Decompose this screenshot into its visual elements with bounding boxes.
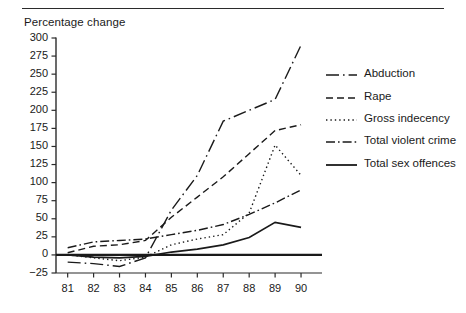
legend-line-sample-icon: [326, 90, 357, 102]
legend-item[interactable]: Total violent crime: [326, 129, 462, 151]
y-tick-label: 0: [0, 247, 48, 259]
legend-item[interactable]: Gross indecency: [326, 107, 462, 129]
y-tick-label: −25: [0, 266, 48, 278]
x-tick-label: 90: [281, 282, 321, 294]
series-line-rape: [68, 125, 301, 253]
legend-item[interactable]: Abduction: [326, 62, 462, 84]
legend-line-sample-icon: [326, 157, 357, 169]
y-tick-label: 75: [0, 193, 48, 205]
legend-item-label: Total violent crime: [364, 134, 456, 146]
series-layer: [68, 45, 301, 266]
y-tick-label: 225: [0, 85, 48, 97]
legend-line-sample-icon: [326, 112, 357, 124]
series-line-abduction: [68, 45, 301, 266]
series-line-gross-indecency: [68, 145, 301, 261]
legend-item-label: Total sex offences: [364, 157, 456, 169]
legend-line-sample-icon: [326, 134, 357, 146]
series-line-total-violent-crime: [68, 190, 301, 248]
legend-item[interactable]: Rape: [326, 84, 462, 106]
legend-item-label: Abduction: [364, 67, 415, 79]
y-tick-label: 100: [0, 175, 48, 187]
y-tick-label: 50: [0, 211, 48, 223]
axes-layer: [52, 38, 323, 278]
y-tick-label: 200: [0, 103, 48, 115]
chart-figure: Percentage change −250255075100125150175…: [0, 0, 466, 313]
legend-item-label: Gross indecency: [364, 112, 450, 124]
y-tick-label: 275: [0, 49, 48, 61]
y-tick-label: 125: [0, 157, 48, 169]
legend-item[interactable]: Total sex offences: [326, 152, 462, 174]
y-tick-label: 250: [0, 67, 48, 79]
series-line-total-sex-offences: [68, 222, 301, 257]
y-tick-label: 150: [0, 139, 48, 151]
y-tick-label: 300: [0, 31, 48, 43]
y-tick-label: 25: [0, 229, 48, 241]
y-tick-label: 175: [0, 121, 48, 133]
legend-line-sample-icon: [326, 67, 357, 79]
chart-legend: AbductionRapeGross indecencyTotal violen…: [326, 62, 462, 174]
legend-item-label: Rape: [364, 90, 392, 102]
